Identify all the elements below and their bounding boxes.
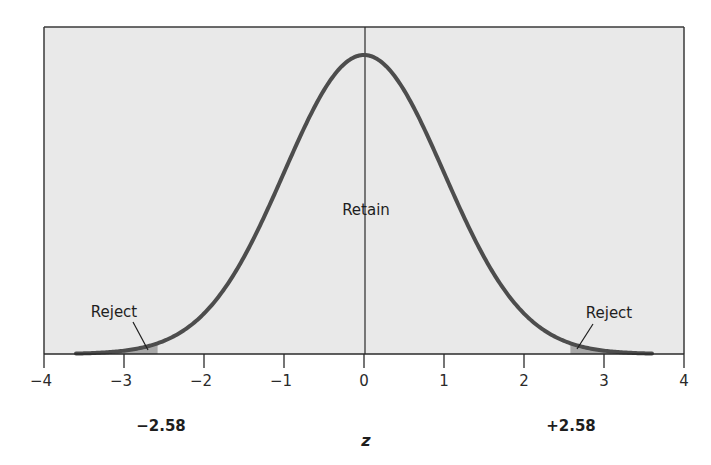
x-axis-ticks: −4−3−2−101234: [30, 354, 689, 390]
x-tick-label: −3: [110, 372, 132, 390]
reject-left-label: Reject: [91, 303, 138, 321]
x-tick-label: −2: [190, 372, 212, 390]
x-axis-title: z: [360, 431, 371, 450]
retain-label: Retain: [342, 201, 390, 219]
critical-value-right: +2.58: [546, 417, 596, 435]
normal-distribution-chart: −4−3−2−101234 Retain Reject Reject −2.58…: [0, 0, 711, 465]
critical-value-left: −2.58: [136, 417, 186, 435]
x-tick-label: 3: [599, 372, 609, 390]
x-tick-label: 4: [679, 372, 689, 390]
x-tick-label: 2: [519, 372, 529, 390]
x-tick-label: 1: [439, 372, 449, 390]
reject-right-label: Reject: [586, 304, 633, 322]
x-tick-label: 0: [359, 372, 369, 390]
x-tick-label: −4: [30, 372, 52, 390]
x-tick-label: −1: [270, 372, 292, 390]
